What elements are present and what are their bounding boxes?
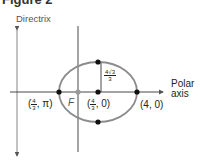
left-vertex-label: (43, π) [28,98,53,111]
left-vertex-point [56,89,61,94]
polar-axis-label: Polar axis [171,78,194,99]
directrix-label: Directrix [16,13,51,24]
focus-label: F [68,97,74,108]
polar-axis-label-line2: axis [171,88,194,99]
center-label: (43, 0) [87,98,110,111]
ellipse-diagram [0,0,200,168]
minor-semi-axis-label: 4√33 [104,69,116,82]
bottom-vertex-point [95,119,100,124]
top-vertex-point [95,59,100,64]
center-point [95,89,100,94]
focus-point [75,89,80,94]
right-vertex-point [134,89,139,94]
right-vertex-label: (4, 0) [140,99,163,110]
